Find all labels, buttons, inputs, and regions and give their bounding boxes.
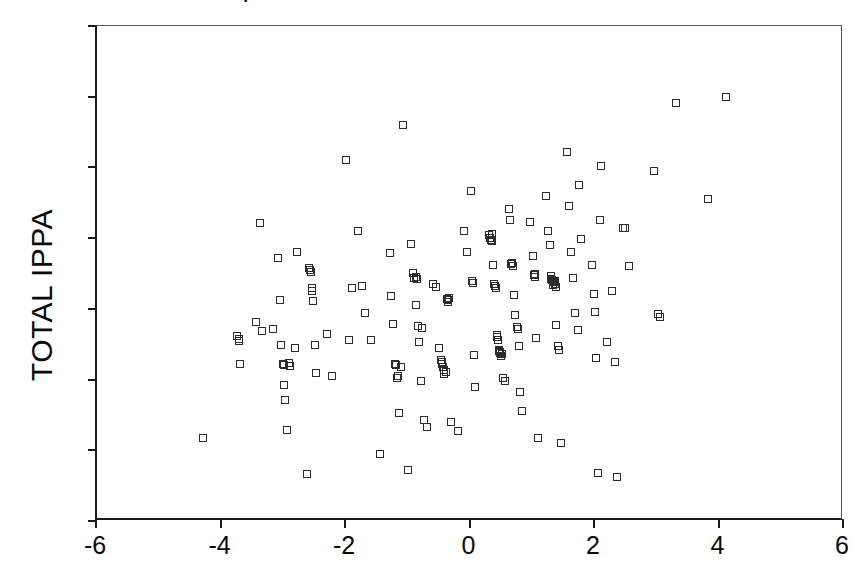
data-point: [389, 320, 397, 328]
data-point: [544, 227, 552, 235]
data-point: [509, 262, 517, 270]
data-point: [486, 234, 494, 242]
data-point: [280, 381, 288, 389]
data-point: [392, 361, 400, 369]
data-point: [542, 192, 550, 200]
data-point: [489, 261, 497, 269]
x-axis-tick-label: 2: [563, 531, 623, 559]
data-point: [529, 252, 537, 260]
data-point: [491, 282, 499, 290]
data-point: [307, 268, 315, 276]
data-point: [354, 227, 362, 235]
x-axis-tick: [344, 519, 346, 528]
x-axis-tick-label: 0: [439, 531, 499, 559]
data-point: [531, 273, 539, 281]
data-point: [367, 336, 375, 344]
data-point: [495, 347, 503, 355]
data-point: [530, 271, 538, 279]
data-point: [485, 231, 493, 239]
data-point: [467, 187, 475, 195]
data-point: [233, 332, 241, 340]
data-point: [440, 370, 448, 378]
data-point: [551, 280, 559, 288]
data-point: [311, 341, 319, 349]
data-point: [345, 336, 353, 344]
data-point: [498, 350, 506, 358]
data-point: [591, 308, 599, 316]
data-point: [235, 335, 243, 343]
data-point: [280, 361, 288, 369]
data-point: [277, 341, 285, 349]
data-point: [548, 276, 556, 284]
data-point: [281, 396, 289, 404]
scatter-plot-figure: | TOTAL IPPA -60-40-20020406080-6-4-2024…: [0, 0, 857, 584]
data-point: [463, 248, 471, 256]
data-point: [488, 237, 496, 245]
data-point: [443, 295, 451, 303]
data-point: [505, 205, 513, 213]
chart-title-fragment: |: [243, 0, 248, 2]
data-point: [493, 333, 501, 341]
data-point: [274, 254, 282, 262]
data-point: [420, 416, 428, 424]
data-point: [563, 148, 571, 156]
data-point: [672, 99, 680, 107]
data-point: [236, 360, 244, 368]
data-point: [497, 352, 505, 360]
data-point: [515, 342, 523, 350]
data-point: [410, 274, 418, 282]
data-point: [438, 358, 446, 366]
data-point: [494, 336, 502, 344]
data-point: [348, 284, 356, 292]
data-point: [309, 297, 317, 305]
data-points-layer: [97, 26, 841, 518]
data-point: [440, 366, 448, 374]
data-point: [444, 298, 452, 306]
data-point: [555, 346, 563, 354]
data-point: [397, 363, 405, 371]
data-point: [496, 348, 504, 356]
data-point: [303, 470, 311, 478]
data-point: [409, 269, 417, 277]
data-point: [518, 407, 526, 415]
data-point: [308, 287, 316, 295]
data-point: [549, 277, 557, 285]
data-point: [567, 248, 575, 256]
data-point: [507, 260, 515, 268]
data-point: [437, 356, 445, 364]
data-point: [342, 156, 350, 164]
data-point: [571, 309, 579, 317]
data-point: [554, 342, 562, 350]
data-point: [471, 383, 479, 391]
data-point: [361, 309, 369, 317]
data-point: [252, 318, 260, 326]
data-point: [376, 450, 384, 458]
data-point: [308, 284, 316, 292]
data-point: [460, 227, 468, 235]
data-point: [619, 224, 627, 232]
data-point: [444, 296, 452, 304]
plot-area: [95, 25, 842, 520]
data-point: [258, 327, 266, 335]
data-point: [501, 377, 509, 385]
x-axis-tick-label: -2: [314, 531, 374, 559]
data-point: [551, 277, 559, 285]
data-point: [415, 338, 423, 346]
data-point: [276, 296, 284, 304]
data-point: [516, 388, 524, 396]
data-point: [487, 236, 495, 244]
data-point: [650, 167, 658, 175]
data-point: [439, 363, 447, 371]
data-point: [490, 280, 498, 288]
data-point: [312, 369, 320, 377]
data-point: [569, 274, 577, 282]
data-point: [625, 262, 633, 270]
data-point: [404, 466, 412, 474]
data-point: [285, 359, 293, 367]
data-point: [590, 290, 598, 298]
data-point: [492, 284, 500, 292]
data-point: [596, 216, 604, 224]
data-point: [395, 409, 403, 417]
x-axis-tick: [469, 519, 471, 528]
data-point: [393, 374, 401, 382]
